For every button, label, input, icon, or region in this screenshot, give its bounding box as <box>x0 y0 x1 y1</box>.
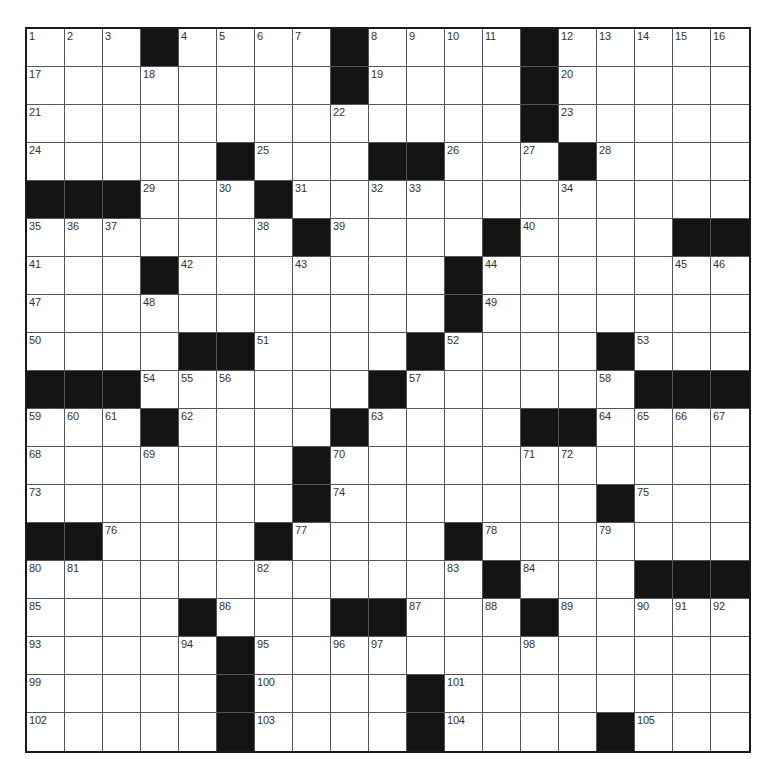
grid-cell[interactable] <box>65 599 103 637</box>
grid-cell[interactable] <box>521 295 559 333</box>
grid-cell[interactable]: 68 <box>27 447 65 485</box>
grid-cell[interactable] <box>369 257 407 295</box>
grid-cell[interactable] <box>673 105 711 143</box>
grid-cell[interactable] <box>293 143 331 181</box>
grid-cell[interactable]: 6 <box>255 29 293 67</box>
grid-cell[interactable] <box>445 105 483 143</box>
grid-cell[interactable] <box>597 181 635 219</box>
grid-cell[interactable] <box>559 219 597 257</box>
grid-cell[interactable] <box>179 485 217 523</box>
grid-cell[interactable] <box>65 447 103 485</box>
grid-cell[interactable]: 79 <box>597 523 635 561</box>
grid-cell[interactable] <box>711 713 749 751</box>
grid-cell[interactable] <box>673 637 711 675</box>
grid-cell[interactable] <box>331 257 369 295</box>
grid-cell[interactable] <box>445 371 483 409</box>
grid-cell[interactable] <box>407 257 445 295</box>
grid-cell[interactable] <box>407 409 445 447</box>
grid-cell[interactable] <box>445 67 483 105</box>
grid-cell[interactable] <box>179 713 217 751</box>
grid-cell[interactable]: 103 <box>255 713 293 751</box>
grid-cell[interactable] <box>445 219 483 257</box>
grid-cell[interactable]: 102 <box>27 713 65 751</box>
grid-cell[interactable] <box>597 675 635 713</box>
grid-cell[interactable] <box>559 675 597 713</box>
grid-cell[interactable] <box>141 561 179 599</box>
grid-cell[interactable] <box>559 295 597 333</box>
grid-cell[interactable] <box>65 257 103 295</box>
grid-cell[interactable] <box>141 675 179 713</box>
grid-cell[interactable] <box>103 485 141 523</box>
grid-cell[interactable]: 45 <box>673 257 711 295</box>
grid-cell[interactable] <box>331 333 369 371</box>
grid-cell[interactable] <box>331 143 369 181</box>
grid-cell[interactable]: 57 <box>407 371 445 409</box>
grid-cell[interactable]: 53 <box>635 333 673 371</box>
grid-cell[interactable]: 10 <box>445 29 483 67</box>
grid-cell[interactable] <box>255 67 293 105</box>
grid-cell[interactable]: 85 <box>27 599 65 637</box>
grid-cell[interactable] <box>559 637 597 675</box>
grid-cell[interactable] <box>179 67 217 105</box>
grid-cell[interactable]: 93 <box>27 637 65 675</box>
grid-cell[interactable] <box>103 333 141 371</box>
grid-cell[interactable] <box>635 105 673 143</box>
grid-cell[interactable]: 29 <box>141 181 179 219</box>
grid-cell[interactable]: 11 <box>483 29 521 67</box>
grid-cell[interactable] <box>635 219 673 257</box>
grid-cell[interactable]: 77 <box>293 523 331 561</box>
grid-cell[interactable] <box>483 637 521 675</box>
grid-cell[interactable]: 1 <box>27 29 65 67</box>
grid-cell[interactable] <box>407 485 445 523</box>
grid-cell[interactable] <box>483 143 521 181</box>
grid-cell[interactable]: 83 <box>445 561 483 599</box>
grid-cell[interactable] <box>217 409 255 447</box>
grid-cell[interactable]: 69 <box>141 447 179 485</box>
grid-cell[interactable] <box>141 219 179 257</box>
grid-cell[interactable] <box>217 561 255 599</box>
grid-cell[interactable] <box>255 257 293 295</box>
grid-cell[interactable]: 23 <box>559 105 597 143</box>
grid-cell[interactable] <box>483 713 521 751</box>
grid-cell[interactable]: 63 <box>369 409 407 447</box>
grid-cell[interactable] <box>179 143 217 181</box>
grid-cell[interactable]: 19 <box>369 67 407 105</box>
grid-cell[interactable] <box>483 675 521 713</box>
grid-cell[interactable] <box>217 105 255 143</box>
grid-cell[interactable] <box>293 599 331 637</box>
grid-cell[interactable]: 2 <box>65 29 103 67</box>
grid-cell[interactable] <box>369 561 407 599</box>
grid-cell[interactable]: 91 <box>673 599 711 637</box>
grid-cell[interactable]: 32 <box>369 181 407 219</box>
grid-cell[interactable]: 54 <box>141 371 179 409</box>
grid-cell[interactable] <box>293 637 331 675</box>
grid-cell[interactable] <box>293 105 331 143</box>
grid-cell[interactable]: 49 <box>483 295 521 333</box>
grid-cell[interactable] <box>559 371 597 409</box>
grid-cell[interactable] <box>673 181 711 219</box>
grid-cell[interactable] <box>293 67 331 105</box>
grid-cell[interactable] <box>65 143 103 181</box>
grid-cell[interactable] <box>255 447 293 485</box>
grid-cell[interactable] <box>255 295 293 333</box>
grid-cell[interactable]: 18 <box>141 67 179 105</box>
grid-cell[interactable] <box>65 637 103 675</box>
grid-cell[interactable]: 88 <box>483 599 521 637</box>
grid-cell[interactable]: 39 <box>331 219 369 257</box>
grid-cell[interactable] <box>217 219 255 257</box>
grid-cell[interactable]: 31 <box>293 181 331 219</box>
grid-cell[interactable] <box>483 447 521 485</box>
grid-cell[interactable] <box>521 675 559 713</box>
grid-cell[interactable] <box>65 675 103 713</box>
grid-cell[interactable] <box>141 637 179 675</box>
grid-cell[interactable] <box>673 447 711 485</box>
grid-cell[interactable] <box>407 523 445 561</box>
grid-cell[interactable]: 13 <box>597 29 635 67</box>
grid-cell[interactable] <box>141 523 179 561</box>
grid-cell[interactable] <box>103 295 141 333</box>
grid-cell[interactable]: 60 <box>65 409 103 447</box>
grid-cell[interactable] <box>559 561 597 599</box>
grid-cell[interactable]: 25 <box>255 143 293 181</box>
grid-cell[interactable] <box>255 485 293 523</box>
grid-cell[interactable] <box>369 485 407 523</box>
